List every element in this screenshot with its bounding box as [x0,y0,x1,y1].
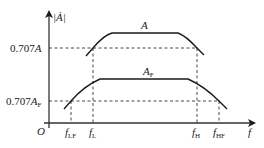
tick-fLF: fLF [65,126,76,140]
x-axis-label: f [248,126,253,138]
y-axis-label: |Ȧ| [53,11,66,23]
origin-label: O [37,125,45,137]
tick-fL: fL [89,126,96,140]
curve-A [86,33,204,56]
tick-fHF-sub: HF [216,132,225,140]
tick-fL-sub: L [92,132,96,140]
reference-lines [49,48,220,123]
tick-fH-sub: H [195,132,200,140]
curve-A-label: A [140,19,148,31]
tick-fLF-sub: LF [68,132,76,140]
level-0707AF-sub: F [37,101,41,109]
frequency-response-diagram: |Ȧ| A AF 0.707A 0.707AF O fLF fL fH fHF … [0,0,264,148]
level-0707A-num: 0.707 [10,42,35,54]
curve-AF-label: AF [142,65,154,79]
curve-AF-label-sub: F [150,71,154,79]
level-0707AF-label: 0.707AF [6,95,41,109]
level-0707AF-num: 0.707 [6,95,31,107]
level-0707A-label: 0.707A [10,42,42,54]
tick-fHF: fHF [213,126,225,140]
curve-AF [64,79,227,109]
level-0707A-var: A [34,42,42,54]
tick-fH: fH [192,126,200,140]
